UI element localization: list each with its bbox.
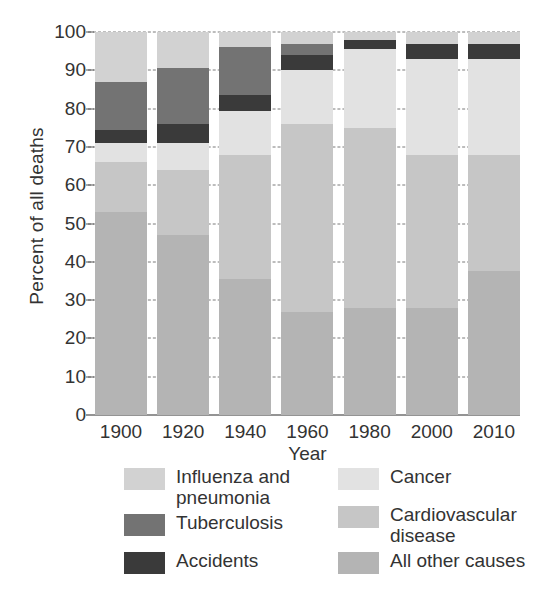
bar-segment-2010-influenza-and-pneumonia bbox=[468, 32, 520, 43]
bar-segment-2000-influenza-and-pneumonia bbox=[406, 32, 458, 43]
y-tick-label-100: 100 bbox=[54, 21, 86, 43]
bar-segment-1920-influenza-and-pneumonia bbox=[157, 32, 209, 68]
y-tick-mark-30 bbox=[86, 300, 94, 301]
bar-segment-1940-tuberculosis bbox=[219, 47, 271, 95]
bar-segment-1920-accidents bbox=[157, 124, 209, 143]
y-tick-label-90: 90 bbox=[65, 59, 86, 81]
stacked-bar-1940 bbox=[219, 32, 271, 415]
bar-segment-2010-accidents bbox=[468, 44, 520, 59]
chart-legend: Influenza and pneumoniaTuberculosisAccid… bbox=[124, 466, 534, 588]
bar-segment-2000-cardiovascular-disease bbox=[406, 155, 458, 308]
legend-swatch-cancer bbox=[338, 468, 379, 490]
y-tick-label-30: 30 bbox=[65, 289, 86, 311]
bar-column-1960: 1960 bbox=[281, 32, 333, 415]
bar-segment-1900-cancer bbox=[95, 143, 147, 162]
y-tick-mark-70 bbox=[86, 146, 94, 147]
bar-segment-1960-cancer bbox=[281, 70, 333, 124]
y-tick-mark-10 bbox=[86, 376, 94, 377]
y-tick-mark-40 bbox=[86, 261, 94, 262]
x-tick-label-1960: 1960 bbox=[286, 421, 328, 443]
bar-segment-2000-all-other-causes bbox=[406, 308, 458, 415]
y-tick-mark-20 bbox=[86, 338, 94, 339]
bar-segment-1960-accidents bbox=[281, 55, 333, 70]
bar-segment-2000-cancer bbox=[406, 59, 458, 155]
bar-segment-1980-accidents bbox=[344, 40, 396, 50]
bar-segment-1900-cardiovascular-disease bbox=[95, 162, 147, 212]
bar-segment-2010-all-other-causes bbox=[468, 271, 520, 415]
bar-column-1980: 1980 bbox=[344, 32, 396, 415]
bar-segment-1900-tuberculosis bbox=[95, 82, 147, 130]
legend-swatch-cardiovascular bbox=[338, 506, 379, 528]
legend-swatch-influenza bbox=[124, 468, 165, 490]
bar-segment-1940-accidents bbox=[219, 95, 271, 110]
bar-column-2010: 2010 bbox=[468, 32, 520, 415]
bar-column-1900: 1900 bbox=[95, 32, 147, 415]
legend-column-right: CancerCardiovascular diseaseAll other ca… bbox=[338, 466, 534, 588]
bar-segment-2000-accidents bbox=[406, 44, 458, 59]
bar-column-1920: 1920 bbox=[157, 32, 209, 415]
y-tick-label-70: 70 bbox=[65, 136, 86, 158]
bar-segment-2010-cardiovascular-disease bbox=[468, 155, 520, 272]
bar-segment-1980-influenza-and-pneumonia bbox=[344, 32, 396, 40]
bar-segment-1960-all-other-causes bbox=[281, 312, 333, 415]
legend-item: Tuberculosis bbox=[124, 512, 320, 546]
legend-label: Accidents bbox=[176, 550, 258, 571]
stacked-bar-1900 bbox=[95, 32, 147, 415]
x-tick-label-1900: 1900 bbox=[100, 421, 142, 443]
bar-segment-1940-cardiovascular-disease bbox=[219, 155, 271, 279]
stacked-bar-1920 bbox=[157, 32, 209, 415]
legend-label: All other causes bbox=[390, 550, 525, 571]
legend-item: All other causes bbox=[338, 550, 534, 584]
bar-segment-1920-cancer bbox=[157, 143, 209, 170]
stacked-bar-chart-figure: Percent of all deaths 010203040506070809… bbox=[0, 0, 553, 599]
legend-label: Cardiovascular disease bbox=[390, 504, 534, 546]
bar-segment-1920-cardiovascular-disease bbox=[157, 170, 209, 235]
x-tick-label-1980: 1980 bbox=[348, 421, 390, 443]
legend-column-left: Influenza and pneumoniaTuberculosisAccid… bbox=[124, 466, 320, 588]
legend-swatch-all-other bbox=[338, 552, 379, 574]
bar-segment-1900-all-other-causes bbox=[95, 212, 147, 415]
bar-segment-1920-tuberculosis bbox=[157, 68, 209, 124]
legend-label: Cancer bbox=[390, 466, 451, 487]
plot-area: 0102030405060708090100 19001920194019601… bbox=[95, 32, 520, 415]
legend-swatch-accidents bbox=[124, 552, 165, 574]
y-tick-label-50: 50 bbox=[65, 213, 86, 235]
legend-swatch-tuberculosis bbox=[124, 514, 165, 536]
y-tick-label-0: 0 bbox=[75, 404, 86, 426]
x-tick-label-1920: 1920 bbox=[162, 421, 204, 443]
bar-segment-1960-cardiovascular-disease bbox=[281, 124, 333, 312]
bar-column-1940: 1940 bbox=[219, 32, 271, 415]
bar-segment-1940-all-other-causes bbox=[219, 279, 271, 415]
y-tick-label-20: 20 bbox=[65, 327, 86, 349]
y-tick-mark-50 bbox=[86, 223, 94, 224]
bar-segment-1980-cardiovascular-disease bbox=[344, 128, 396, 308]
x-axis-title: Year bbox=[95, 443, 520, 465]
y-tick-mark-60 bbox=[86, 185, 94, 186]
legend-label: Tuberculosis bbox=[176, 512, 283, 533]
bar-segment-1940-cancer bbox=[219, 111, 271, 155]
y-tick-mark-80 bbox=[86, 108, 94, 109]
stacked-bar-2000 bbox=[406, 32, 458, 415]
bar-segment-1900-influenza-and-pneumonia bbox=[95, 32, 147, 82]
bar-segment-1980-cancer bbox=[344, 49, 396, 128]
y-tick-label-80: 80 bbox=[65, 98, 86, 120]
bar-column-2000: 2000 bbox=[406, 32, 458, 415]
bar-segment-1960-tuberculosis bbox=[281, 44, 333, 55]
y-tick-label-40: 40 bbox=[65, 251, 86, 273]
stacked-bar-2010 bbox=[468, 32, 520, 415]
y-tick-mark-90 bbox=[86, 70, 94, 71]
legend-item: Accidents bbox=[124, 550, 320, 584]
bar-segment-2010-cancer bbox=[468, 59, 520, 155]
legend-item: Cardiovascular disease bbox=[338, 504, 534, 546]
stacked-bar-1980 bbox=[344, 32, 396, 415]
bar-segment-1960-influenza-and-pneumonia bbox=[281, 32, 333, 43]
bar-segment-1920-all-other-causes bbox=[157, 235, 209, 415]
legend-item: Cancer bbox=[338, 466, 534, 500]
legend-label: Influenza and pneumonia bbox=[176, 466, 320, 508]
x-tick-label-1940: 1940 bbox=[224, 421, 266, 443]
y-tick-label-10: 10 bbox=[65, 366, 86, 388]
bar-segment-1940-influenza-and-pneumonia bbox=[219, 32, 271, 47]
x-tick-label-2000: 2000 bbox=[411, 421, 453, 443]
legend-item: Influenza and pneumonia bbox=[124, 466, 320, 508]
bar-segment-1900-accidents bbox=[95, 130, 147, 143]
